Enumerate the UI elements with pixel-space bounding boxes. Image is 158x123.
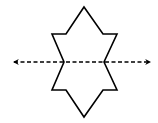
diagram-canvas <box>0 0 158 123</box>
